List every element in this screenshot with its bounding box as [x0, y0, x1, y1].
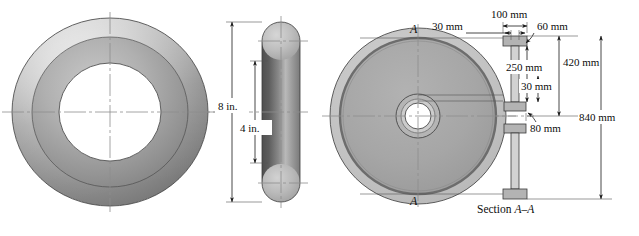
dimension-60mm: 60 mm — [526, 20, 568, 43]
dimension-100mm-label: 100 mm — [491, 8, 528, 20]
dimension-60mm-label: 60 mm — [537, 20, 568, 32]
dimension-8in-label: 8 in. — [218, 100, 238, 112]
section-lower-bottom-flange — [503, 189, 527, 199]
section-upper-top-flange — [503, 36, 527, 46]
section-lower-web — [511, 133, 519, 189]
flywheel-front-view: A A — [322, 22, 516, 208]
dimension-80mm-leader — [528, 113, 536, 122]
section-caption: Section A–A — [477, 203, 535, 215]
engineering-drawing-figure: 8 in. 4 in. A A — [0, 0, 639, 236]
dimension-100mm: 100 mm — [491, 8, 528, 33]
dimension-250mm-label: 250 mm — [506, 61, 543, 73]
dimension-840mm-label: 840 mm — [579, 111, 616, 123]
section-caption-prefix: Section — [477, 203, 514, 215]
dimension-30mm-web-label: 30 mm — [432, 20, 463, 32]
section-lower-top-flange — [504, 124, 526, 133]
section-marker-top: A — [409, 22, 418, 36]
dimension-30mm-hub-label: 30 mm — [521, 80, 552, 92]
section-caption-letters: A–A — [513, 203, 535, 215]
dimension-30mm-hub: 30 mm — [519, 76, 563, 102]
drawing-canvas: 8 in. 4 in. A A — [0, 0, 639, 236]
dimension-80mm-label: 80 mm — [530, 122, 561, 134]
section-upper-bottom-flange — [504, 102, 526, 111]
dimension-420mm: 420 mm — [527, 36, 612, 116]
dimension-4in-label: 4 in. — [240, 122, 260, 134]
section-marker-bottom: A — [409, 194, 418, 208]
dimension-420mm-label: 420 mm — [563, 56, 600, 68]
